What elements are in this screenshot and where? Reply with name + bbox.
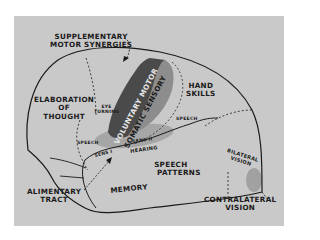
label-line: VISION [204, 204, 276, 212]
label-line: THOUGHT [34, 113, 94, 121]
label-speech-upper: SPEECH [176, 116, 198, 121]
label-line: SKILLS [186, 90, 216, 98]
brainstem-line-2 [60, 176, 84, 178]
label-line: TRACT [27, 196, 81, 204]
label-speech-patterns: SPEECH PATTERNS [145, 161, 201, 178]
label-line: PATTERNS [157, 169, 201, 177]
alimentary-arrowhead [106, 157, 112, 164]
label-line: TURNING [94, 109, 119, 114]
alimentary-arrow [84, 160, 110, 190]
brainstem-line [50, 158, 86, 168]
label-speech-left: SPEECH [77, 140, 99, 145]
label-line: MOTOR SYNERGIES [50, 41, 132, 49]
label-elaboration-of-thought: ELABORATION OF THOUGHT [34, 96, 94, 121]
label-contralateral-vision: CONTRALATERAL VISION [204, 196, 276, 213]
label-hand-skills: HAND SKILLS [186, 82, 216, 99]
label-supplementary-motor: SUPPLEMENTARY MOTOR SYNERGIES [50, 33, 132, 50]
vision-area [246, 168, 262, 192]
label-alimentary-tract: ALIMENTARY TRACT [27, 188, 81, 205]
label-eye-turning: EYE TURNING [94, 104, 119, 114]
supplementary-arrowhead [123, 56, 129, 62]
